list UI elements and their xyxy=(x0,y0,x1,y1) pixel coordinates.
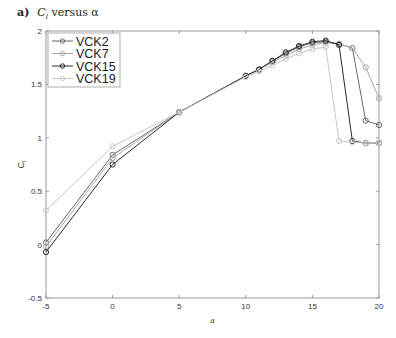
x-axis-label: α xyxy=(210,317,215,325)
x-tick-label: -5 xyxy=(42,302,50,311)
cl-vs-alpha-chart: -505101520-0.500.511.52αCl VCK2VCK7VCK15… xyxy=(0,0,396,338)
y-tick-label: 2 xyxy=(38,27,43,36)
x-tick-label: 0 xyxy=(110,302,115,311)
x-tick-label: 10 xyxy=(241,302,250,311)
y-tick-label: -0.5 xyxy=(28,294,42,303)
legend-label: VCK19 xyxy=(76,72,116,86)
legend: VCK2VCK7VCK15VCK19 xyxy=(48,33,120,87)
y-axis-label: Cl xyxy=(16,161,27,169)
x-tick-label: 5 xyxy=(177,302,182,311)
x-tick-label: 20 xyxy=(375,302,384,311)
x-tick-label: 15 xyxy=(308,302,317,311)
y-tick-label: 1.5 xyxy=(31,80,43,89)
y-tick-label: 0.5 xyxy=(31,187,43,196)
y-tick-label: 1 xyxy=(38,134,43,143)
y-tick-label: 0 xyxy=(38,241,43,250)
